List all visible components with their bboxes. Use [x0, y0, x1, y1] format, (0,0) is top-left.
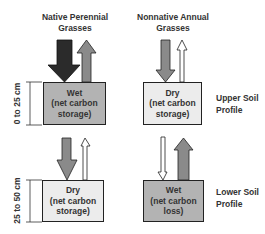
carbon-output-arrow-up [77, 40, 96, 82]
box-text: (net carbon [51, 98, 97, 109]
box-text: (net carbon [149, 98, 195, 109]
box-text: storage) [56, 206, 90, 217]
row-label-upper: Upper Soil Profile [216, 92, 259, 116]
depth-label-lower: 25 to 50 cm [12, 171, 23, 231]
row-label-lower: Lower Soil Profile [216, 186, 259, 210]
column-header-line: Nonnative Annual [128, 12, 218, 23]
carbon-input-arrow-down [57, 138, 77, 180]
column-header-line: Native Perennial [30, 12, 120, 23]
box-text: storage) [156, 109, 190, 120]
row-label-line: Upper Soil [216, 92, 259, 104]
row-label-line: Profile [216, 198, 259, 210]
soil-state: Dry [66, 185, 80, 196]
box-lower-nonnative: Wet (net carbon loss) [143, 180, 204, 222]
soil-state: Wet [166, 185, 181, 196]
soil-state: Wet [67, 88, 82, 99]
column-header-nonnative: Nonnative Annual Grasses [128, 12, 218, 34]
box-text: (net carbon [150, 196, 196, 207]
depth-bracket-upper [26, 82, 42, 125]
soil-state: Dry [165, 88, 179, 99]
column-header-line: Grasses [128, 23, 218, 34]
carbon-output-arrow-up-small [81, 138, 90, 180]
box-lower-native: Dry (net carbon storage) [42, 180, 104, 222]
carbon-input-arrow-down-large [48, 40, 80, 82]
carbon-input-arrow-down [156, 40, 175, 82]
row-label-line: Profile [216, 104, 259, 116]
row-label-line: Lower Soil [216, 186, 259, 198]
box-upper-native: Wet (net carbon storage) [43, 82, 106, 125]
carbon-input-arrow-down-small [158, 137, 167, 180]
column-header-native: Native Perennial Grasses [30, 12, 120, 34]
depth-label-upper: 0 to 25 cm [12, 74, 23, 134]
box-upper-nonnative: Dry (net carbon storage) [143, 82, 202, 125]
box-text: loss) [164, 206, 184, 217]
carbon-output-arrow-up-small [177, 40, 187, 82]
box-text: (net carbon [50, 196, 96, 207]
column-header-line: Grasses [30, 23, 120, 34]
depth-bracket-lower [26, 180, 42, 222]
box-text: storage) [58, 109, 92, 120]
carbon-output-arrow-up-large [174, 138, 193, 180]
